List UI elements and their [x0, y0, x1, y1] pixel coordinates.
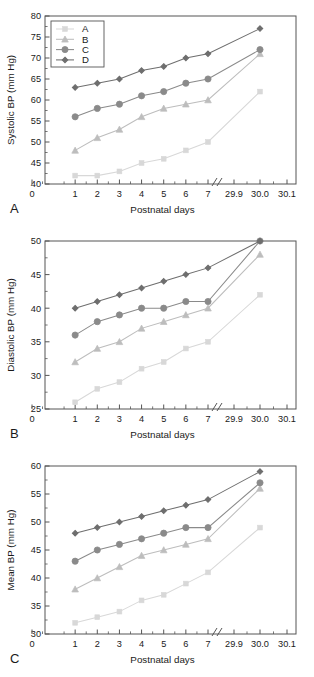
- x-tick-label: 29.9: [225, 189, 243, 199]
- marker-circle: [94, 105, 100, 111]
- x-tick-label: 0: [29, 414, 34, 424]
- marker-triangle: [72, 147, 79, 153]
- x-tick-label: 7: [205, 414, 210, 424]
- x-axis: 0123456729.930.030.1: [29, 630, 296, 650]
- marker-circle: [62, 47, 68, 53]
- y-tick-label: 35: [31, 337, 41, 347]
- axis-break-slash: [217, 178, 222, 186]
- y-axis-title: Diastolic BP (mm Hg): [5, 278, 16, 371]
- y-tick-label: 45: [31, 270, 41, 280]
- marker-diamond: [161, 279, 166, 284]
- x-axis-title: Postnatal days: [130, 654, 194, 665]
- marker-circle: [138, 305, 144, 311]
- marker-square: [63, 27, 68, 32]
- series-line: [75, 488, 260, 589]
- x-axis: 0123456729.930.030.1: [29, 180, 296, 200]
- x-tick-label: 1: [73, 189, 78, 199]
- y-tick-label: 50: [31, 236, 41, 246]
- series-a: [73, 89, 263, 178]
- series-b: [72, 485, 263, 592]
- x-tick-label: 3: [117, 639, 122, 649]
- y-tick-label: 50: [31, 517, 41, 527]
- marker-triangle: [94, 575, 101, 581]
- x-tick-label: 30.1: [278, 414, 296, 424]
- marker-diamond: [183, 55, 188, 60]
- marker-diamond: [95, 525, 100, 530]
- x-tick-label: 30.1: [278, 189, 296, 199]
- marker-diamond: [139, 68, 144, 73]
- y-tick-label: 80: [31, 11, 41, 21]
- marker-diamond: [139, 514, 144, 519]
- marker-circle: [205, 298, 211, 304]
- x-tick-label: 0: [29, 639, 34, 649]
- marker-circle: [205, 525, 211, 531]
- x-tick-label: 30.1: [278, 639, 296, 649]
- marker-diamond: [205, 497, 210, 502]
- x-tick-label: 5: [161, 639, 166, 649]
- x-tick-label: 2: [95, 189, 100, 199]
- marker-square: [117, 609, 122, 614]
- marker-square: [139, 598, 144, 603]
- marker-triangle: [72, 586, 79, 592]
- chart-c: 303540455055600123456729.930.030.1Mean B…: [0, 450, 314, 675]
- marker-circle: [183, 80, 189, 86]
- y-tick-label: 60: [31, 95, 41, 105]
- x-tick-label: 2: [95, 414, 100, 424]
- marker-diamond: [161, 508, 166, 513]
- marker-square: [183, 148, 188, 153]
- series-line: [75, 92, 260, 176]
- axis-break-marker: [212, 178, 222, 186]
- x-tick-label: 1: [73, 414, 78, 424]
- marker-square: [73, 400, 78, 405]
- marker-circle: [161, 89, 167, 95]
- figure-blood-pressure-panels: 4045505560657075800123456729.930.030.1Sy…: [0, 0, 314, 677]
- series-line: [75, 295, 260, 403]
- y-tick-label: 55: [31, 116, 41, 126]
- marker-diamond: [139, 285, 144, 290]
- marker-square: [258, 89, 263, 94]
- x-tick-label: 30.0: [251, 189, 269, 199]
- series-line: [75, 241, 260, 308]
- x-axis: 0123456729.930.030.1: [29, 405, 296, 425]
- marker-circle: [116, 101, 122, 107]
- x-tick-label: 29.9: [225, 639, 243, 649]
- y-tick-label: 35: [31, 601, 41, 611]
- series-c: [72, 238, 263, 338]
- marker-triangle: [72, 359, 79, 365]
- marker-square: [95, 386, 100, 391]
- marker-square: [183, 581, 188, 586]
- x-axis-title: Postnatal days: [130, 204, 194, 215]
- x-tick-label: 6: [183, 414, 188, 424]
- marker-triangle: [116, 126, 123, 132]
- marker-square: [161, 592, 166, 597]
- x-axis-title: Postnatal days: [130, 429, 194, 440]
- marker-diamond: [117, 519, 122, 524]
- marker-triangle: [138, 114, 145, 120]
- marker-square: [95, 615, 100, 620]
- marker-diamond: [257, 26, 262, 31]
- marker-circle: [116, 312, 122, 318]
- y-tick-label: 40: [31, 573, 41, 583]
- marker-circle: [183, 298, 189, 304]
- axis-break-marker: [212, 628, 222, 636]
- axis-break-slash: [212, 178, 217, 186]
- y-axis: 253035404550: [31, 236, 50, 414]
- marker-diamond: [95, 299, 100, 304]
- marker-diamond: [183, 503, 188, 508]
- series-c: [72, 480, 263, 565]
- x-tick-label: 5: [161, 189, 166, 199]
- marker-circle: [94, 319, 100, 325]
- marker-diamond: [72, 306, 77, 311]
- x-tick-label: 2: [95, 639, 100, 649]
- panel-letter: B: [10, 426, 19, 441]
- marker-triangle: [116, 339, 123, 345]
- marker-circle: [161, 305, 167, 311]
- marker-circle: [138, 93, 144, 99]
- marker-diamond: [72, 85, 77, 90]
- x-tick-label: 6: [183, 639, 188, 649]
- x-tick-label: 3: [117, 189, 122, 199]
- panel-c: 303540455055600123456729.930.030.1Mean B…: [0, 450, 314, 675]
- marker-triangle: [257, 251, 264, 257]
- x-tick-label: 7: [205, 189, 210, 199]
- y-tick-label: 65: [31, 74, 41, 84]
